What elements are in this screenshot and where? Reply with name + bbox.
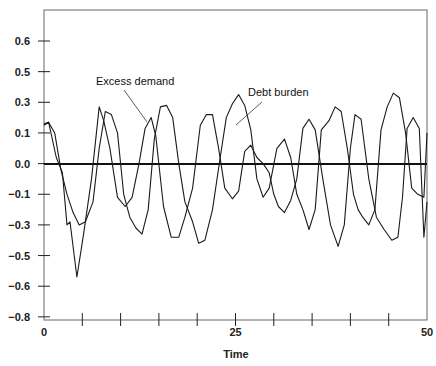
y-tick-label: 0.1 xyxy=(15,127,30,139)
y-tick-label: −0.6 xyxy=(8,280,30,292)
annotation-debt-burden: Debt burden xyxy=(236,86,309,125)
y-tick-label: −0.3 xyxy=(8,219,30,231)
series-debt-burden xyxy=(44,93,427,243)
annotation-excess-demand-leader xyxy=(124,90,147,122)
line-chart: 0.60.50.30.10.0−0.1−0.3−0.5−0.6−0.8 0255… xyxy=(0,0,436,366)
x-axis-title: Time xyxy=(223,348,248,360)
x-tick-label: 0 xyxy=(41,326,47,338)
x-tick-label: 50 xyxy=(421,326,433,338)
y-tick-label: −0.5 xyxy=(8,250,30,262)
y-tick-label: −0.1 xyxy=(8,188,30,200)
y-tick-label: 0.5 xyxy=(15,66,30,78)
series-layer xyxy=(44,93,427,277)
y-tick-label: 0.0 xyxy=(15,158,30,170)
x-tick-label: 25 xyxy=(229,326,241,338)
annotation-debt-burden-label: Debt burden xyxy=(248,86,309,98)
y-tick-label: 0.6 xyxy=(15,35,30,47)
y-tick-label: −0.8 xyxy=(8,311,30,323)
annotation-excess-demand: Excess demand xyxy=(96,75,174,122)
y-tick-label: 0.3 xyxy=(15,96,30,108)
x-axis: 02550 xyxy=(41,313,433,338)
annotation-excess-demand-label: Excess demand xyxy=(96,75,174,87)
